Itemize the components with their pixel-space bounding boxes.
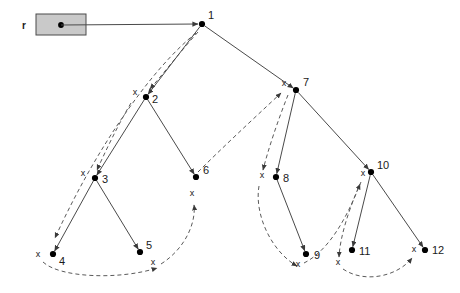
tree-edge-8-9	[277, 180, 305, 251]
tree-node-11[interactable]: 11	[349, 245, 371, 257]
thread-x10-to-x11	[339, 182, 361, 257]
thread-x11-arc-x12	[343, 258, 412, 277]
tree-node-7[interactable]: 7	[293, 76, 309, 93]
node-dot-10	[368, 169, 374, 175]
tree-edge-layer	[55, 26, 423, 251]
node-dot-8	[273, 174, 279, 180]
tree-node-1[interactable]: 1	[199, 9, 214, 27]
tree-edge-10-11	[353, 175, 370, 247]
tree-edge-3-5	[97, 181, 139, 249]
node-dot-9	[303, 251, 309, 257]
node-layer: 123456789101112	[50, 9, 444, 267]
tree-edge-7-10	[298, 92, 369, 169]
node-dot-12	[422, 247, 428, 253]
tree-edge-2-6	[148, 100, 195, 174]
tree-edge-7-8	[277, 93, 296, 174]
node-dot-11	[349, 247, 355, 253]
thread-x6-to-7	[198, 93, 281, 172]
diagram-canvas: r xxxxxxxxxxx 123456789101112	[0, 0, 460, 293]
null-marker-x-at-9: x	[296, 259, 301, 269]
node-label-7: 7	[303, 76, 309, 88]
null-marker-x-at-3: x	[81, 168, 86, 178]
tree-edge-1-7	[205, 26, 294, 88]
node-label-4: 4	[59, 255, 65, 267]
thread-x8-to-x9	[258, 186, 297, 266]
node-label-9: 9	[314, 249, 320, 261]
tree-node-8[interactable]: 8	[273, 172, 289, 184]
tree-node-4[interactable]: 4	[50, 251, 65, 267]
tree-edge-3-4	[55, 181, 94, 251]
node-label-11: 11	[359, 245, 370, 257]
node-label-12: 12	[432, 244, 444, 256]
threaded-binary-tree-diagram: r xxxxxxxxxxx 123456789101112	[0, 0, 460, 293]
tree-edge-2-3	[97, 100, 144, 175]
tree-node-6[interactable]: 6	[193, 164, 209, 180]
node-label-6: 6	[203, 164, 209, 176]
tree-node-12[interactable]: 12	[422, 244, 444, 256]
tree-edge-1-2	[148, 27, 200, 95]
tree-node-10[interactable]: 10	[368, 159, 389, 175]
tree-node-5[interactable]: 5	[137, 239, 152, 255]
tree-node-3[interactable]: 3	[92, 173, 108, 185]
node-label-1: 1	[208, 9, 214, 21]
null-marker-x-at-8: x	[260, 170, 265, 180]
node-label-2: 2	[152, 93, 158, 105]
node-dot-2	[143, 94, 149, 100]
node-label-5: 5	[146, 239, 152, 251]
null-marker-x-at-2: x	[133, 87, 138, 97]
node-dot-4	[50, 251, 56, 257]
node-dot-3	[92, 175, 98, 181]
thread-1-to-x4	[55, 33, 196, 238]
null-marker-x-at-5: x	[151, 257, 156, 267]
root-pointer-label: r	[22, 20, 26, 31]
null-marker-x-at-10: x	[361, 168, 366, 178]
node-dot-6	[193, 174, 199, 180]
node-dot-1	[199, 21, 205, 27]
null-marker-x-at-12: x	[412, 244, 417, 254]
null-marker-x-at-7: x	[282, 78, 287, 88]
node-label-8: 8	[283, 172, 289, 184]
null-marker-layer: xxxxxxxxxxx	[36, 78, 417, 269]
node-label-3: 3	[102, 173, 108, 185]
thread-x5-to-x6	[161, 205, 194, 264]
thread-7-to-x8	[263, 95, 288, 170]
null-marker-x-at-4: x	[36, 249, 41, 259]
tree-node-9[interactable]: 9	[303, 249, 320, 261]
node-dot-7	[293, 87, 299, 93]
node-label-10: 10	[377, 159, 389, 171]
tree-node-2[interactable]: 2	[143, 93, 158, 105]
null-marker-x-at-6: x	[190, 188, 195, 198]
root-pointer-layer: r	[22, 14, 198, 35]
node-dot-5	[137, 249, 143, 255]
null-marker-x-at-11: x	[336, 257, 341, 267]
thread-pointer-layer	[43, 32, 412, 277]
tree-edge-10-12	[373, 175, 423, 248]
